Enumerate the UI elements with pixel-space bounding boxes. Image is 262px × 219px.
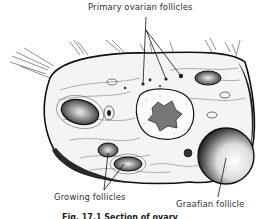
ovary-illustration (0, 0, 262, 219)
graafian-follicle (198, 128, 254, 184)
follicle-top-right (195, 71, 221, 85)
label-growing-follicles: Growing follicles (54, 192, 126, 202)
growing-follicle-2 (114, 157, 142, 171)
figure-caption: Fig. 17.1 Section of ovary (62, 213, 178, 219)
label-graafian-follicle: Graafian follicle (176, 199, 244, 209)
ovary-figure: Primary ovarian follicles Growing follic… (0, 0, 262, 219)
label-primary-ovarian-follicles: Primary ovarian follicles (88, 2, 193, 12)
